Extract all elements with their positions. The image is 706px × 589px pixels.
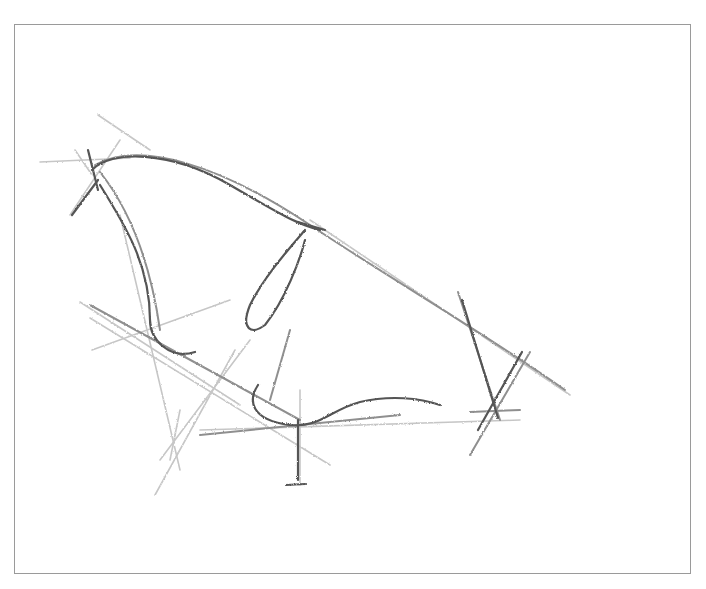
mid-strokes (90, 155, 565, 455)
center-loop (246, 230, 305, 330)
construction-lines (40, 115, 570, 495)
upper-arc (92, 156, 320, 230)
pencil-sketch (0, 0, 706, 589)
bottom-curve (253, 385, 440, 425)
